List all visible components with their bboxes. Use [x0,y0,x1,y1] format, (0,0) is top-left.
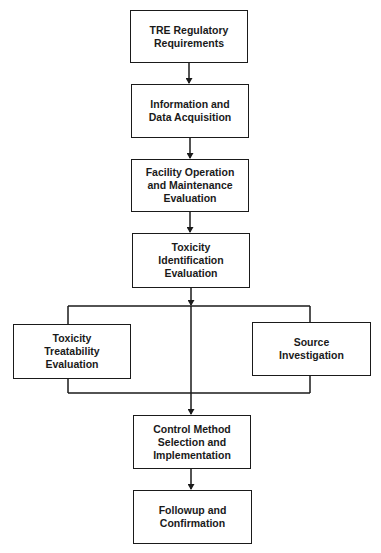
node-facility-operation-maintenance: Facility Operation and Maintenance Evalu… [131,159,249,212]
flowchart-diagram: TRE Regulatory Requirements Information … [0,0,381,553]
node-label-line: Toxicity [158,241,223,254]
node-label-line: and Maintenance [146,179,235,192]
node-label-line: Evaluation [158,267,223,280]
node-label-line: Selection and [153,436,231,449]
node-label-line: Evaluation [44,358,99,371]
node-toxicity-identification-evaluation: Toxicity Identification Evaluation [132,233,250,288]
node-label-line: Treatability [44,345,99,358]
node-control-method-selection: Control Method Selection and Implementat… [133,415,251,469]
node-label-line: Confirmation [159,517,227,530]
node-information-data-acquisition: Information and Data Acquisition [131,84,249,138]
node-label-line: Information and [149,98,231,111]
node-label-line: Source [279,336,344,349]
node-label-line: Data Acquisition [149,111,231,124]
node-label-line: TRE Regulatory [150,24,229,37]
node-label-line: Requirements [150,37,229,50]
node-label-line: Followup and [159,504,227,517]
node-label-line: Facility Operation [146,166,235,179]
node-label-line: Evaluation [146,192,235,205]
node-label-line: Investigation [279,349,344,362]
node-label-line: Implementation [153,449,231,462]
node-followup-confirmation: Followup and Confirmation [133,490,252,544]
node-label-line: Control Method [153,423,231,436]
node-label-line: Toxicity [44,332,99,345]
node-tre-regulatory-requirements: TRE Regulatory Requirements [130,10,248,63]
node-source-investigation: Source Investigation [252,322,371,376]
node-toxicity-treatability-evaluation: Toxicity Treatability Evaluation [13,324,131,379]
node-label-line: Identification [158,254,223,267]
